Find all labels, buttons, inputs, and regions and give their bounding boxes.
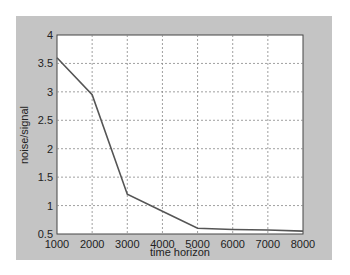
y-tick-label: 1.5 [38,171,53,183]
y-tick-label: 4 [47,29,53,41]
x-tick-label: 8000 [291,238,315,250]
line-chart: 0.511.522.533.54 10002000300040005000600… [0,0,350,275]
y-tick-label: 3 [47,86,53,98]
x-tick-label: 6000 [220,238,244,250]
y-axis-label: noise/signal [18,106,30,164]
plot-area [57,35,303,234]
x-tick-label: 7000 [256,238,280,250]
y-tick-label: 2.5 [38,114,53,126]
x-tick-label: 2000 [80,238,104,250]
y-tick-label: 2 [47,143,53,155]
x-tick-label: 1000 [45,238,69,250]
y-axis-ticks: 0.511.522.533.54 [38,29,53,240]
y-tick-label: 1 [47,200,53,212]
x-axis-label: time horizon [150,246,210,258]
x-tick-label: 3000 [115,238,139,250]
y-tick-label: 3.5 [38,57,53,69]
